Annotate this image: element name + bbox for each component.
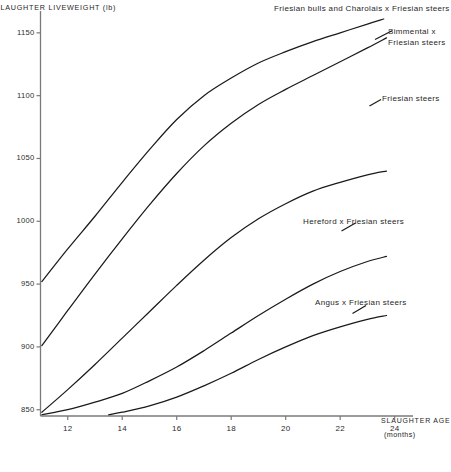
- y-tick-label: 1100: [13, 91, 35, 100]
- y-tick-label: 850: [13, 405, 35, 414]
- series-line-1: [42, 19, 384, 282]
- x-tick-label: 22: [328, 424, 352, 433]
- series-line-4: [42, 256, 387, 414]
- series-line-3: [42, 171, 387, 412]
- x-tick-label: 18: [219, 424, 243, 433]
- series-line-5: [109, 316, 387, 415]
- series-layer: [42, 19, 393, 415]
- y-tick-label: 900: [13, 342, 35, 351]
- series-line-2: [42, 38, 387, 346]
- axes-layer: [37, 11, 414, 420]
- x-tick-label: 24: [383, 424, 407, 433]
- x-tick-label: 20: [274, 424, 298, 433]
- y-tick-label: 1050: [13, 153, 35, 162]
- annotation-leader-2: [370, 100, 382, 107]
- y-tick-label: 950: [13, 279, 35, 288]
- annotation-leader-3: [342, 223, 356, 231]
- x-tick-label: 16: [165, 424, 189, 433]
- x-tick-label: 12: [56, 424, 80, 433]
- y-tick-label: 1150: [13, 28, 35, 37]
- annotation-leader-1: [375, 31, 393, 40]
- x-tick-label: 14: [110, 424, 134, 433]
- annotation-leader-4: [353, 306, 367, 314]
- y-tick-label: 1000: [13, 216, 35, 225]
